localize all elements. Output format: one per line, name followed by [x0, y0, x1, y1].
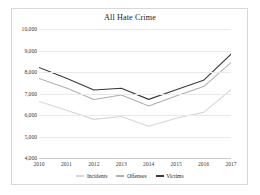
- gridline: [39, 115, 231, 116]
- gridline: [39, 137, 231, 138]
- x-axis-tick-label: 2016: [198, 161, 209, 167]
- y-axis-tick-label: 5,000: [3, 134, 37, 140]
- x-axis-tick-label: 2013: [116, 161, 127, 167]
- x-axis-tick-label: 2012: [88, 161, 99, 167]
- legend-swatch-icon: [116, 175, 124, 176]
- x-axis-tick-label: 2015: [171, 161, 182, 167]
- x-axis-tick-label: 2017: [225, 161, 236, 167]
- legend-item[interactable]: Incidents: [76, 173, 107, 179]
- gridline: [39, 51, 231, 52]
- gridline: [39, 94, 231, 95]
- plot-area: [39, 29, 231, 158]
- y-axis-tick-label: 10,000: [3, 26, 37, 32]
- legend-label: Offenses: [127, 173, 147, 179]
- series-line: [39, 63, 231, 106]
- legend-label: Victims: [166, 173, 183, 179]
- x-axis-tick-label: 2010: [33, 161, 44, 167]
- x-axis-labels: 20102011201220132014201520162017: [39, 161, 231, 173]
- x-axis-line: [39, 158, 231, 159]
- x-axis-tick-label: 2014: [143, 161, 154, 167]
- chart-title: All Hate Crime: [0, 13, 260, 22]
- legend-label: Incidents: [87, 173, 108, 179]
- y-axis-tick-label: 8,000: [3, 69, 37, 75]
- x-axis-tick-label: 2011: [61, 161, 72, 167]
- chart-legend: IncidentsOffensesVictims: [0, 173, 260, 179]
- series-line: [39, 90, 231, 126]
- legend-item[interactable]: Offenses: [116, 173, 146, 179]
- y-axis-tick-label: 9,000: [3, 48, 37, 54]
- y-axis-tick-label: 7,000: [3, 91, 37, 97]
- y-axis-tick-label: 4,000: [3, 155, 37, 161]
- y-axis-tick-label: 6,000: [3, 112, 37, 118]
- legend-item[interactable]: Victims: [156, 173, 184, 179]
- legend-swatch-icon: [76, 175, 84, 176]
- chart-figure: All Hate Crime 4,0005,0006,0007,0008,000…: [0, 0, 260, 195]
- gridline: [39, 72, 231, 73]
- gridline: [39, 29, 231, 30]
- legend-swatch-icon: [156, 175, 164, 176]
- y-axis-labels: 4,0005,0006,0007,0008,0009,00010,000: [0, 0, 37, 195]
